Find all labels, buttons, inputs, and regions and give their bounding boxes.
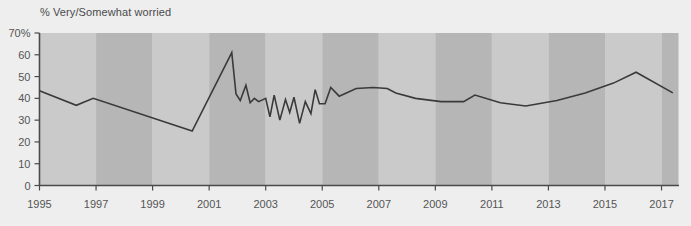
y-tick-label: 40 <box>18 92 30 104</box>
background-band <box>266 33 323 186</box>
background-band <box>435 33 492 186</box>
x-tick-label: 1997 <box>84 198 108 210</box>
background-band <box>40 33 97 186</box>
background-band <box>322 33 379 186</box>
line-chart-plot: 010203040506070% 19951997199920012003200… <box>0 0 691 226</box>
x-tick-label: 2015 <box>593 198 617 210</box>
x-tick-label: 2001 <box>197 198 221 210</box>
x-tick-label: 2007 <box>367 198 391 210</box>
background-band <box>548 33 605 186</box>
background-band <box>605 33 662 186</box>
x-tick-label: 1999 <box>140 198 164 210</box>
background-band <box>662 33 679 186</box>
background-band <box>153 33 210 186</box>
chart-container: % Very/Somewhat worried 010203040506070%… <box>0 0 691 226</box>
background-bands <box>40 33 679 186</box>
y-axis-ticks: 010203040506070% <box>8 27 39 192</box>
x-axis-ticks: 1995199719992001200320052007200920112013… <box>27 186 674 210</box>
background-band <box>492 33 549 186</box>
background-band <box>209 33 266 186</box>
y-tick-label: 10 <box>18 158 30 170</box>
y-tick-label: 30 <box>18 114 30 126</box>
x-tick-label: 2013 <box>536 198 560 210</box>
x-tick-label: 1995 <box>27 198 51 210</box>
x-tick-label: 2009 <box>423 198 447 210</box>
background-band <box>379 33 436 186</box>
x-tick-label: 2005 <box>310 198 334 210</box>
x-tick-label: 2003 <box>253 198 277 210</box>
y-tick-label: 70% <box>8 27 30 39</box>
y-tick-label: 60 <box>18 49 30 61</box>
x-tick-label: 2011 <box>480 198 504 210</box>
y-tick-label: 0 <box>24 180 30 192</box>
y-tick-label: 50 <box>18 71 30 83</box>
y-tick-label: 20 <box>18 136 30 148</box>
x-tick-label: 2017 <box>649 198 673 210</box>
